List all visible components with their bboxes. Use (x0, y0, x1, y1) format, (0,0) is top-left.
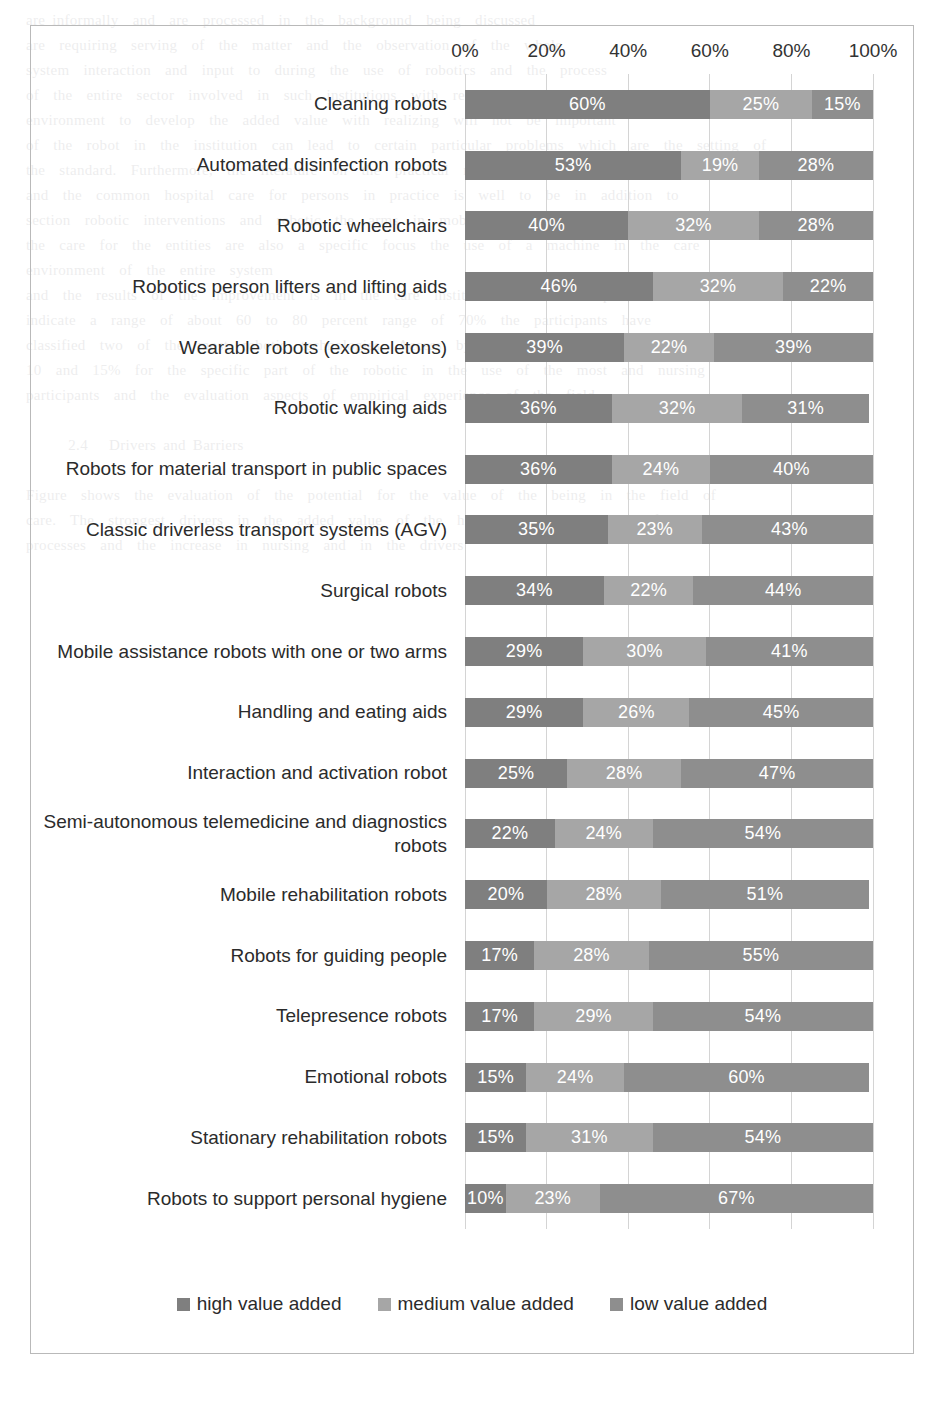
bar-segment-value-label: 28% (798, 215, 835, 236)
bar-segment-medium[interactable]: 23% (506, 1184, 600, 1213)
stacked-bar[interactable]: 36%32%31% (465, 394, 873, 423)
bar-segment-low[interactable]: 22% (783, 272, 873, 301)
bar-segment-high[interactable]: 15% (465, 1063, 526, 1092)
bar-segment-low[interactable]: 47% (681, 759, 873, 788)
bar-segment-high[interactable]: 20% (465, 880, 547, 909)
bar-row: 40%32%28% (465, 196, 873, 257)
bar-segment-medium[interactable]: 24% (555, 819, 653, 848)
bar-segment-low[interactable]: 60% (624, 1063, 869, 1092)
legend-item-medium[interactable]: medium value added (378, 1293, 574, 1315)
bar-segment-medium[interactable]: 29% (534, 1002, 652, 1031)
bar-segment-value-label: 28% (573, 945, 610, 966)
bar-segment-medium[interactable]: 26% (583, 698, 689, 727)
bar-segment-value-label: 47% (759, 763, 796, 784)
bar-segment-medium[interactable]: 31% (526, 1123, 652, 1152)
bar-segment-value-label: 32% (675, 215, 712, 236)
x-axis-tick-labels: 0%20%40%60%80%100% (465, 40, 873, 66)
bar-segment-high[interactable]: 60% (465, 90, 710, 119)
category-label: Classic driverless transport systems (AG… (41, 500, 459, 561)
bar-segment-low[interactable]: 55% (649, 941, 873, 970)
bar-row: 35%23%43% (465, 500, 873, 561)
stacked-bar[interactable]: 36%24%40% (465, 455, 873, 484)
legend-item-low[interactable]: low value added (610, 1293, 767, 1315)
bar-segment-high[interactable]: 29% (465, 698, 583, 727)
stacked-bar[interactable]: 20%28%51% (465, 880, 873, 909)
legend-item-high[interactable]: high value added (177, 1293, 342, 1315)
bar-segment-medium[interactable]: 28% (534, 941, 648, 970)
stacked-bar[interactable]: 46%32%22% (465, 272, 873, 301)
category-axis-labels: Cleaning robotsAutomated disinfection ro… (41, 74, 459, 1229)
bar-segment-high[interactable]: 25% (465, 759, 567, 788)
bar-segment-value-label: 35% (518, 519, 555, 540)
bar-segment-high[interactable]: 35% (465, 515, 608, 544)
bar-segment-medium[interactable]: 28% (567, 759, 681, 788)
bar-segment-medium[interactable]: 25% (710, 90, 812, 119)
bar-segment-low[interactable]: 51% (661, 880, 869, 909)
bar-segment-medium[interactable]: 22% (604, 576, 694, 605)
bar-segment-medium[interactable]: 19% (681, 151, 759, 180)
bar-segment-low[interactable]: 54% (653, 819, 873, 848)
bar-row: 36%32%31% (465, 378, 873, 439)
stacked-bar[interactable]: 15%31%54% (465, 1123, 873, 1152)
bar-segment-low[interactable]: 31% (742, 394, 868, 423)
bar-segment-medium[interactable]: 30% (583, 637, 705, 666)
stacked-bar[interactable]: 17%29%54% (465, 1002, 873, 1031)
bar-segment-high[interactable]: 15% (465, 1123, 526, 1152)
stacked-bar[interactable]: 15%24%60% (465, 1063, 873, 1092)
bar-segment-high[interactable]: 10% (465, 1184, 506, 1213)
bar-segment-low[interactable]: 44% (693, 576, 873, 605)
bar-segment-low[interactable]: 45% (689, 698, 873, 727)
bar-segment-value-label: 44% (765, 580, 802, 601)
bar-segment-high[interactable]: 22% (465, 819, 555, 848)
bar-segment-medium[interactable]: 24% (526, 1063, 624, 1092)
stacked-bar[interactable]: 39%22%39% (465, 333, 873, 362)
stacked-bar[interactable]: 29%30%41% (465, 637, 873, 666)
bar-segment-high[interactable]: 17% (465, 941, 534, 970)
bar-segment-high[interactable]: 53% (465, 151, 681, 180)
bar-segment-high[interactable]: 36% (465, 455, 612, 484)
bar-segment-high[interactable]: 40% (465, 211, 628, 240)
bar-segment-medium[interactable]: 32% (653, 272, 784, 301)
bar-segment-low[interactable]: 28% (759, 151, 873, 180)
bar-segment-value-label: 60% (569, 94, 606, 115)
stacked-bar[interactable]: 25%28%47% (465, 759, 873, 788)
bar-segment-low[interactable]: 28% (759, 211, 873, 240)
bar-segment-low[interactable]: 67% (600, 1184, 873, 1213)
bar-segment-low[interactable]: 39% (714, 333, 873, 362)
bar-segment-high[interactable]: 29% (465, 637, 583, 666)
stacked-bar[interactable]: 60%25%15% (465, 90, 873, 119)
bar-segment-value-label: 26% (618, 702, 655, 723)
bar-row: 22%24%54% (465, 804, 873, 865)
category-label: Robotic wheelchairs (41, 196, 459, 257)
bar-segment-medium[interactable]: 32% (628, 211, 759, 240)
bar-segment-value-label: 31% (571, 1127, 608, 1148)
bar-segment-low[interactable]: 54% (653, 1123, 873, 1152)
bar-segment-low[interactable]: 54% (653, 1002, 873, 1031)
stacked-bar[interactable]: 35%23%43% (465, 515, 873, 544)
bar-segment-medium[interactable]: 32% (612, 394, 743, 423)
stacked-bar[interactable]: 22%24%54% (465, 819, 873, 848)
bar-segment-low[interactable]: 43% (702, 515, 873, 544)
bar-segment-high[interactable]: 17% (465, 1002, 534, 1031)
x-axis-tick-label: 20% (528, 40, 566, 62)
stacked-bar[interactable]: 17%28%55% (465, 941, 873, 970)
stacked-bar[interactable]: 10%23%67% (465, 1184, 873, 1213)
stacked-bar[interactable]: 40%32%28% (465, 211, 873, 240)
bar-segment-high[interactable]: 46% (465, 272, 653, 301)
bar-segment-high[interactable]: 34% (465, 576, 604, 605)
bar-row: 17%28%55% (465, 925, 873, 986)
bar-segment-low[interactable]: 40% (710, 455, 873, 484)
bar-segment-medium[interactable]: 28% (547, 880, 661, 909)
bar-segment-low[interactable]: 15% (812, 90, 873, 119)
bar-segment-medium[interactable]: 23% (608, 515, 702, 544)
bar-segment-high[interactable]: 39% (465, 333, 624, 362)
stacked-bar[interactable]: 34%22%44% (465, 576, 873, 605)
stacked-bar[interactable]: 29%26%45% (465, 698, 873, 727)
bar-segment-low[interactable]: 41% (706, 637, 873, 666)
category-label: Telepresence robots (41, 986, 459, 1047)
bar-segment-high[interactable]: 36% (465, 394, 612, 423)
bar-segment-medium[interactable]: 24% (612, 455, 710, 484)
stacked-bar[interactable]: 53%19%28% (465, 151, 873, 180)
bar-segment-medium[interactable]: 22% (624, 333, 714, 362)
bar-segment-value-label: 19% (702, 155, 739, 176)
